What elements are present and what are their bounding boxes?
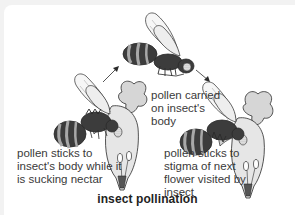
label-pollen-sticks-body: pollen sticks to insect's body while it … — [17, 147, 121, 186]
label-line: pollen sticks to — [164, 147, 246, 160]
label-line: on insect's — [151, 102, 220, 115]
label-line: pollen sticks to — [17, 147, 121, 160]
label-line: pollen carried — [151, 89, 220, 102]
arrow-flower-to-bee — [103, 66, 119, 82]
label-line: body — [151, 115, 220, 128]
label-pollen-carried: pollen carried on insect's body — [151, 89, 220, 128]
bee-in-flight — [123, 13, 194, 76]
label-line: insect's body while it — [17, 160, 121, 173]
arrow-bee-to-flower — [196, 70, 210, 82]
label-line: is sucking nectar — [17, 173, 121, 186]
label-line: stigma of next — [164, 160, 246, 173]
diagram-caption: insect pollination — [0, 192, 295, 206]
label-line: flower visited by — [164, 173, 246, 186]
